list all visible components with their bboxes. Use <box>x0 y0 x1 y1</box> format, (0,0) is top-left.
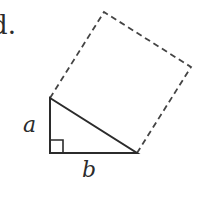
right-angle-marker <box>50 140 63 153</box>
dashed-square <box>50 12 191 153</box>
leg-b-label: b <box>82 157 96 182</box>
diagram-canvas: d. a b <box>0 0 201 200</box>
leg-a-label: a <box>23 112 36 137</box>
pythagorean-figure <box>0 0 201 200</box>
